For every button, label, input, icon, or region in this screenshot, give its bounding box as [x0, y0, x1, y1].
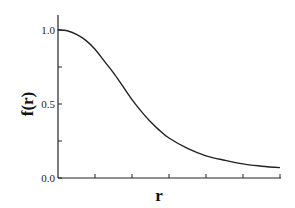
line-chart: 0.00.51.0 r f(r)	[0, 0, 295, 208]
y-axis-label: f(r)	[18, 92, 37, 117]
axes	[58, 15, 281, 178]
y-tick-label: 0.0	[41, 172, 55, 184]
y-tick-label: 0.5	[41, 98, 55, 110]
x-axis-label: r	[155, 186, 163, 205]
y-tick-label: 1.0	[41, 24, 55, 36]
y-ticks: 0.00.51.0	[41, 24, 62, 184]
data-line	[58, 30, 280, 168]
